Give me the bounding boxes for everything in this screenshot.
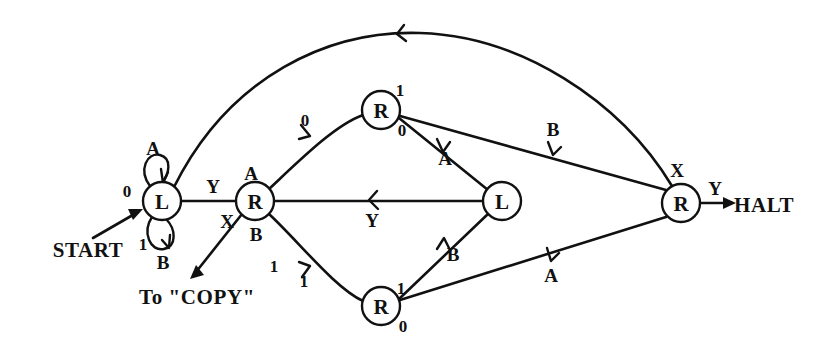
node-label-L-left: L [155, 190, 169, 214]
edge-label-Lmid-to-Rbottom: B [447, 244, 460, 265]
edge-label-Rtop-to-Rright: B [547, 119, 560, 140]
edge-label-start-bit: 0 [123, 182, 132, 201]
node-L-left[interactable]: L [143, 182, 181, 220]
terminal-label-copy: To "COPY" [139, 285, 255, 309]
node-label-R-bottom: R [373, 295, 389, 319]
node-L-mid[interactable]: L [483, 182, 521, 220]
edge-label-Lmid-to-Rleft: Y [365, 210, 379, 231]
edge-Rleft-to-Rtop [269, 115, 363, 189]
node-label-L-mid: L [495, 190, 509, 214]
edge-label-copy-bit: 1 [270, 257, 279, 276]
edge-label-rbottom-upper-bit: 1 [397, 279, 406, 298]
edge-label-loop-bottom-symbol: B [157, 252, 170, 273]
edge-label-B-rleft: B [250, 224, 263, 245]
node-label-R-right: R [673, 192, 689, 216]
terminal-label-halt: HALT [734, 193, 794, 217]
edge-Rright-to-HALT [700, 197, 736, 209]
node-R-left[interactable]: R [236, 182, 274, 220]
node-R-bottom[interactable]: R [362, 287, 400, 325]
edge-label-X-rright: X [670, 160, 684, 181]
edge-label-Y-rleft: Y [206, 176, 220, 197]
edge-label-Rbottom-to-Rright: A [544, 265, 558, 286]
edge-label-Y-halt: Y [708, 178, 722, 199]
self-loop-L-bottom [148, 217, 174, 249]
edge-label-rbottom-lower-bit: 0 [399, 317, 408, 336]
edge-label-A-rleft: A [244, 163, 258, 184]
terminal-label-start: START [53, 238, 124, 262]
edge-Lmid-to-Rleft [274, 191, 483, 209]
edge-label-rtop-upper-bit: 1 [396, 81, 405, 100]
edge-label-diag-up-bit: 0 [301, 111, 310, 130]
edge-label-Rtop-to-Lmid: A [438, 148, 452, 169]
node-label-R-left: R [247, 190, 263, 214]
edge-start-to-L [93, 209, 143, 238]
state-diagram-canvas: L R R R L R START HALT To "COPY" 0 A 1 B… [0, 0, 836, 354]
edge-Rleft-to-Rbottom [269, 214, 363, 301]
edge-label-diag-down-bit: 1 [300, 272, 309, 291]
edge-label-loop-bottom-bit: 1 [139, 235, 148, 254]
edge-label-X-rleft: X [220, 211, 234, 232]
edge-label-rtop-lower-bit: 0 [398, 121, 407, 140]
node-R-top[interactable]: R [362, 91, 400, 129]
node-R-right[interactable]: R [662, 184, 700, 222]
edge-Rleft-to-COPY [190, 214, 242, 279]
edge-label-loop-top-symbol: A [146, 138, 160, 159]
node-label-R-top: R [373, 99, 389, 123]
